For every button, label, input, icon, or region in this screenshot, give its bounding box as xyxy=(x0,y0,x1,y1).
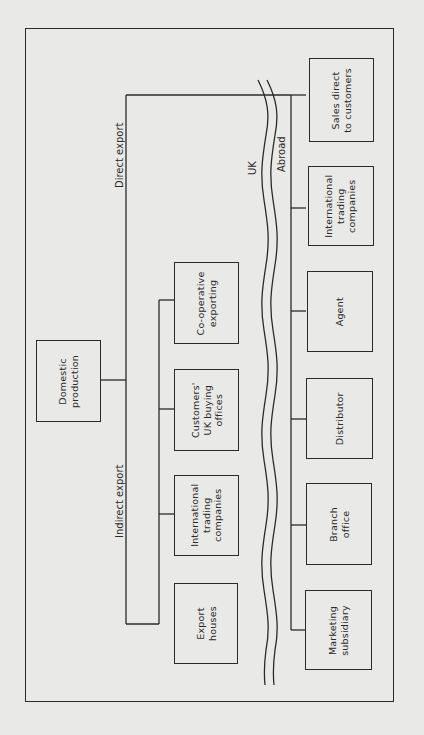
export-channels-diagram: Domestic production Direct export Indire… xyxy=(0,0,424,735)
node-label: Distributor xyxy=(334,392,346,445)
node-label: Domestic production xyxy=(57,354,80,407)
node-label: International trading companies xyxy=(189,484,224,547)
node-abroad-international-trading-companies: International trading companies xyxy=(308,166,374,246)
node-label: Customers' UK buying offices xyxy=(189,382,224,438)
node-customers-uk-buying-offices: Customers' UK buying offices xyxy=(174,369,239,451)
label-uk: UK xyxy=(247,161,258,175)
label-indirect-export: Indirect export xyxy=(114,465,125,538)
label-abroad: Abroad xyxy=(276,136,287,172)
node-label: Sales direct to customers xyxy=(330,68,353,133)
node-agent: Agent xyxy=(307,271,373,352)
border-wave xyxy=(258,80,277,685)
node-label: Agent xyxy=(334,297,346,326)
node-label: Co-operative exporting xyxy=(195,271,218,335)
node-label: Marketing subsidiary xyxy=(327,605,350,656)
node-branch-office: Branch office xyxy=(306,483,372,565)
node-uk-international-trading-companies: International trading companies xyxy=(174,475,239,556)
node-domestic-production: Domestic production xyxy=(36,340,101,422)
node-label: Branch office xyxy=(328,507,351,542)
node-sales-direct-to-customers: Sales direct to customers xyxy=(309,58,374,142)
node-export-houses: Export houses xyxy=(174,583,238,664)
label-direct-export: Direct export xyxy=(114,122,125,188)
node-label: Export houses xyxy=(195,606,218,641)
node-marketing-subsidiary: Marketing subsidiary xyxy=(305,590,372,670)
node-cooperative-exporting: Co-operative exporting xyxy=(174,262,239,344)
node-label: International trading companies xyxy=(324,174,359,237)
node-distributor: Distributor xyxy=(306,378,373,459)
